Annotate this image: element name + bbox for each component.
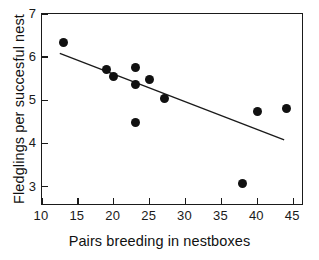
data-point	[238, 179, 247, 188]
y-tick	[42, 100, 48, 101]
x-tick	[149, 198, 150, 204]
y-tick	[42, 186, 48, 187]
data-point	[160, 94, 169, 103]
x-tick-label: 15	[69, 208, 84, 223]
y-axis-title: Fledglings per succesful nest	[11, 14, 27, 204]
data-point	[131, 80, 140, 89]
data-point	[145, 75, 154, 84]
x-tick-label: 10	[34, 208, 49, 223]
x-tick	[113, 198, 114, 204]
data-point	[131, 118, 140, 127]
plot-area	[41, 13, 303, 205]
data-point-layer	[42, 14, 302, 204]
data-point	[59, 38, 68, 47]
x-tick-label: 45	[285, 208, 300, 223]
x-tick-label: 25	[141, 208, 156, 223]
scatter-plot-figure: 1015202530354045 34567 Pairs breeding in…	[0, 0, 319, 260]
x-tick-label: 35	[213, 208, 228, 223]
data-point	[253, 107, 262, 116]
y-tick	[42, 143, 48, 144]
y-tick	[42, 13, 48, 14]
x-tick-label: 40	[249, 208, 264, 223]
x-tick	[221, 198, 222, 204]
data-point	[282, 104, 291, 113]
data-point	[131, 63, 140, 72]
x-tick-label: 30	[177, 208, 192, 223]
x-tick	[293, 198, 294, 204]
x-tick	[185, 198, 186, 204]
data-point	[109, 72, 118, 81]
x-tick-label: 20	[105, 208, 120, 223]
x-tick	[77, 198, 78, 204]
x-tick	[257, 198, 258, 204]
x-tick	[41, 198, 42, 204]
y-tick	[42, 56, 48, 57]
x-axis-title: Pairs breeding in nestboxes	[0, 233, 319, 249]
